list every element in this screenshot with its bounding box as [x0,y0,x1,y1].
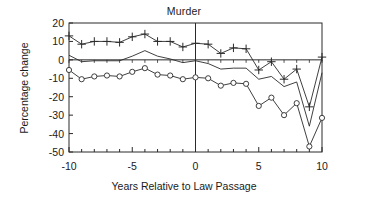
x-tick-label: 5 [239,161,279,172]
x-tick-label: -5 [112,161,152,172]
x-tick-label: 10 [302,161,342,172]
chart-figure: Murder Percentage change Years Relative … [0,0,368,205]
x-axis-tick-labels: -10-50510 [0,0,368,205]
x-tick-label: -10 [49,161,89,172]
x-tick-label: 0 [176,161,216,172]
